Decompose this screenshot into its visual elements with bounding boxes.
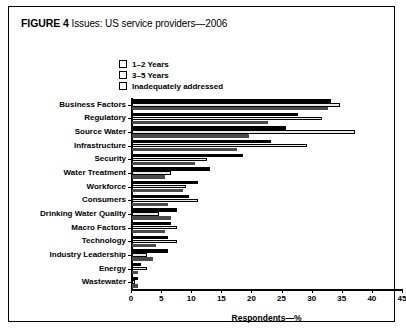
x-tick-label: 15 xyxy=(217,294,226,303)
x-tick-mark xyxy=(131,289,132,293)
x-tick-mark xyxy=(161,289,162,293)
legend-item-1: 3–5 Years xyxy=(119,70,223,80)
y-tick-mark xyxy=(128,159,132,160)
bar xyxy=(132,280,135,283)
x-axis-line xyxy=(131,289,403,291)
x-tick-mark xyxy=(191,289,192,293)
bar xyxy=(132,257,153,260)
y-tick-mark xyxy=(128,187,132,188)
x-tick-mark xyxy=(402,289,403,293)
bar xyxy=(132,226,177,229)
x-tick-mark xyxy=(251,289,252,293)
bar xyxy=(132,171,171,174)
x-tick-label: 5 xyxy=(159,294,163,303)
y-tick-mark xyxy=(128,132,132,133)
chart-legend: 1–2 Years3–5 YearsInadequately addressed xyxy=(119,59,223,92)
bar xyxy=(132,195,189,198)
figure-label: FIGURE 4 xyxy=(21,17,69,29)
category-label: Regulatory xyxy=(84,113,126,122)
x-tick-label: 40 xyxy=(367,294,376,303)
bar xyxy=(132,216,171,219)
x-tick-label: 30 xyxy=(307,294,316,303)
bar xyxy=(132,181,198,184)
x-tick-label: 45 xyxy=(398,294,406,303)
bar xyxy=(132,158,207,161)
bar xyxy=(132,208,177,211)
x-tick-label: 10 xyxy=(187,294,196,303)
legend-swatch-icon xyxy=(119,82,127,90)
figure-caption-text: Issues: US service providers—2006 xyxy=(71,18,227,29)
y-tick-mark xyxy=(128,214,132,215)
bar xyxy=(132,134,249,137)
legend-item-label: Inadequately addressed xyxy=(132,82,223,91)
bar xyxy=(132,148,237,151)
y-tick-mark xyxy=(128,228,132,229)
y-tick-mark xyxy=(128,269,132,270)
y-tick-mark xyxy=(128,146,132,147)
bar xyxy=(132,99,331,102)
bar xyxy=(132,271,138,274)
category-label: Consumers xyxy=(82,195,126,204)
category-label: Workforce xyxy=(87,182,126,191)
legend-item-label: 1–2 Years xyxy=(132,60,169,69)
x-tick-mark xyxy=(312,289,313,293)
x-tick-mark xyxy=(372,289,373,293)
y-tick-mark xyxy=(128,173,132,174)
bar xyxy=(132,140,271,143)
x-tick-mark xyxy=(342,289,343,293)
x-tick-label: 25 xyxy=(277,294,286,303)
bar xyxy=(132,277,138,280)
y-tick-mark xyxy=(128,255,132,256)
x-tick-label: 35 xyxy=(337,294,346,303)
bar xyxy=(132,126,286,129)
category-label: Source Water xyxy=(75,127,126,136)
bar xyxy=(132,107,328,110)
x-axis-title: Respondents—% xyxy=(131,313,402,323)
bar xyxy=(132,185,186,188)
bar xyxy=(132,130,355,133)
bar xyxy=(132,267,147,270)
bar xyxy=(132,154,243,157)
bar xyxy=(132,121,268,124)
bar xyxy=(132,240,177,243)
y-tick-mark xyxy=(128,105,132,106)
figure-frame: FIGURE 4 Issues: US service providers—20… xyxy=(8,6,395,322)
category-label: Water Treatment xyxy=(64,168,126,177)
x-tick-mark xyxy=(282,289,283,293)
bar xyxy=(132,162,195,165)
bar xyxy=(132,175,165,178)
legend-item-2: Inadequately addressed xyxy=(119,81,223,91)
bar xyxy=(132,244,156,247)
legend-item-label: 3–5 Years xyxy=(132,71,169,80)
plot-area: 051015202530354045Business FactorsRegula… xyxy=(131,98,402,289)
y-tick-mark xyxy=(128,200,132,201)
bar xyxy=(132,167,210,170)
category-label: Macro Factors xyxy=(71,223,126,232)
category-label: Infrastructure xyxy=(74,141,126,150)
bar xyxy=(132,103,340,106)
category-label: Drinking Water Quality xyxy=(40,209,126,218)
bar xyxy=(132,117,322,120)
bar xyxy=(132,222,171,225)
figure-caption: FIGURE 4 Issues: US service providers—20… xyxy=(21,17,227,29)
y-tick-mark xyxy=(128,241,132,242)
y-tick-mark xyxy=(128,282,132,283)
legend-swatch-icon xyxy=(119,71,127,79)
bar xyxy=(132,113,298,116)
bar xyxy=(132,144,307,147)
category-label: Energy xyxy=(99,264,126,273)
legend-swatch-icon xyxy=(119,60,127,68)
bar xyxy=(132,203,168,206)
bar xyxy=(132,212,159,215)
category-label: Wastewater xyxy=(82,277,126,286)
y-tick-mark xyxy=(128,118,132,119)
bar xyxy=(132,199,198,202)
category-label: Technology xyxy=(82,236,126,245)
bar xyxy=(132,249,168,252)
legend-item-0: 1–2 Years xyxy=(119,59,223,69)
bar xyxy=(132,263,141,266)
x-tick-label: 20 xyxy=(247,294,256,303)
x-tick-label: 0 xyxy=(129,294,133,303)
category-label: Security xyxy=(94,154,126,163)
bar xyxy=(132,230,165,233)
